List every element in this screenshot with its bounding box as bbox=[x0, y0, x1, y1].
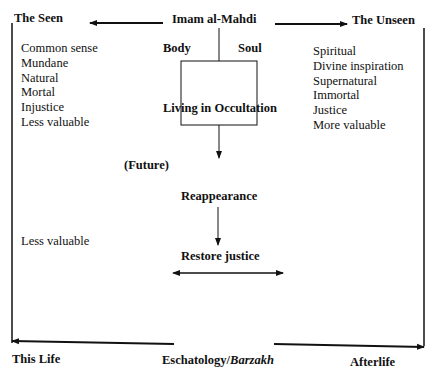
label-imam-al-mahdi: Imam al-Mahdi bbox=[172, 13, 256, 26]
seen-item: Common sense bbox=[21, 41, 98, 56]
barzakh-text: Barzakh bbox=[230, 353, 274, 367]
seen-attributes-list: Common sense Mundane Natural Mortal Inju… bbox=[21, 41, 98, 130]
label-this-life: This Life bbox=[12, 353, 60, 366]
seen-item: Natural bbox=[21, 71, 98, 86]
label-future: (Future) bbox=[124, 159, 169, 172]
seen-item: Mundane bbox=[21, 56, 98, 71]
label-reappearance: Reappearance bbox=[181, 190, 257, 203]
unseen-item: Divine inspiration bbox=[313, 59, 404, 74]
label-body: Body bbox=[163, 42, 191, 55]
seen-item: Less valuable bbox=[21, 115, 98, 130]
occultation-box bbox=[181, 61, 257, 125]
label-soul: Soul bbox=[238, 42, 262, 55]
unseen-attributes-list: Spiritual Divine inspiration Supernatura… bbox=[313, 44, 404, 133]
label-restore-justice: Restore justice bbox=[181, 250, 260, 263]
unseen-item: Spiritual bbox=[313, 44, 404, 59]
label-the-unseen: The Unseen bbox=[352, 14, 415, 27]
label-living-in-occultation: Living in Occultation bbox=[163, 102, 277, 115]
eschatology-text: Eschatology/ bbox=[162, 353, 230, 367]
unseen-item: Supernatural bbox=[313, 74, 404, 89]
arrow-to-afterlife bbox=[274, 344, 424, 347]
unseen-item: Immortal bbox=[313, 88, 404, 103]
unseen-item: Justice bbox=[313, 103, 404, 118]
seen-item: Mortal bbox=[21, 85, 98, 100]
arrow-to-this-life bbox=[12, 341, 174, 344]
label-afterlife: Afterlife bbox=[350, 356, 395, 369]
label-eschatology: Eschatology/Barzakh bbox=[162, 354, 274, 367]
label-the-seen: The Seen bbox=[14, 12, 63, 25]
seen-item: Injustice bbox=[21, 100, 98, 115]
label-less-valuable-extra: Less valuable bbox=[21, 235, 89, 248]
diagram-canvas: The Seen Imam al-Mahdi The Unseen Common… bbox=[0, 0, 434, 380]
unseen-item: More valuable bbox=[313, 118, 404, 133]
